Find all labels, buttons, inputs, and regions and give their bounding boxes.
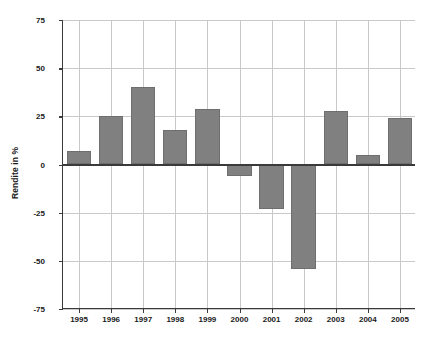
x-tick-mark [336, 308, 337, 313]
x-tick-mark [272, 308, 273, 313]
x-tick-mark [240, 308, 241, 313]
y-tick-label: -50 [17, 256, 45, 265]
plot-area: 7550250-25-50-75 19951996199719981999200… [62, 20, 415, 309]
y-tick-mark [59, 213, 63, 214]
y-tick-label: -25 [17, 208, 45, 217]
x-tick-mark [111, 308, 112, 313]
x-tick-label: 2005 [391, 315, 409, 324]
bar [163, 130, 187, 165]
gridline-horizontal [63, 261, 415, 262]
y-tick-mark [59, 20, 63, 21]
bar [99, 116, 123, 164]
y-tick-mark [59, 68, 63, 69]
gridline-horizontal [63, 68, 415, 69]
bar [195, 109, 219, 165]
y-tick-mark [59, 309, 63, 310]
x-tick-mark [304, 308, 305, 313]
x-tick-label: 1998 [166, 315, 184, 324]
bar [67, 151, 91, 164]
y-tick-mark [59, 116, 63, 117]
x-tick-mark [368, 308, 369, 313]
gridline-horizontal [63, 20, 415, 21]
y-tick-label: 50 [17, 64, 45, 73]
y-axis-title: Rendite in % [0, 0, 26, 348]
bar-chart: Rendite in % 7550250-25-50-75 1995199619… [0, 0, 431, 348]
y-tick-label: -75 [17, 305, 45, 314]
x-tick-label: 2003 [327, 315, 345, 324]
y-tick-label: 25 [17, 112, 45, 121]
x-tick-mark [79, 308, 80, 313]
x-tick-mark [207, 308, 208, 313]
y-tick-label: 75 [17, 16, 45, 25]
bar [259, 165, 283, 209]
bar [324, 111, 348, 165]
y-tick-mark [59, 261, 63, 262]
x-tick-mark [143, 308, 144, 313]
bar [388, 118, 412, 164]
x-tick-label: 1995 [70, 315, 88, 324]
x-tick-label: 2000 [231, 315, 249, 324]
x-tick-label: 1997 [134, 315, 152, 324]
y-tick-label: 0 [17, 160, 45, 169]
bar [131, 87, 155, 164]
x-tick-mark [175, 308, 176, 313]
x-tick-label: 2002 [295, 315, 313, 324]
x-tick-label: 2004 [359, 315, 377, 324]
gridline-horizontal [63, 213, 415, 214]
bar [291, 165, 315, 269]
gridline-horizontal [63, 309, 415, 310]
x-tick-label: 2001 [263, 315, 281, 324]
zero-baseline [63, 164, 415, 166]
x-tick-label: 1999 [199, 315, 217, 324]
x-tick-mark [400, 308, 401, 313]
bar [227, 165, 251, 177]
x-tick-label: 1996 [102, 315, 120, 324]
